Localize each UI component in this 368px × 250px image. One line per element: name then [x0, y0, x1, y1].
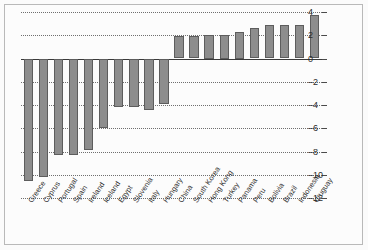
bar	[265, 25, 274, 59]
y-tick-label: 2	[308, 31, 338, 40]
bar	[144, 59, 153, 110]
y-tick-label: –6	[308, 124, 338, 133]
bar	[280, 25, 289, 59]
bar	[189, 36, 198, 58]
bar	[24, 59, 33, 181]
bar	[69, 59, 78, 155]
bar	[295, 25, 304, 59]
bar	[84, 59, 93, 151]
x-axis-category-labels: GreeceCyprusPortugalSpainIrelandIcelandE…	[21, 200, 322, 248]
y-tick-label: –4	[308, 101, 338, 110]
bar	[159, 59, 168, 104]
y-tick-label: 0	[308, 54, 338, 63]
bar	[174, 36, 183, 58]
bar	[114, 59, 123, 108]
chart-figure: 420–2–4–6–8–10–12 GreeceCyprusPortugalSp…	[0, 0, 368, 250]
y-tick-label: 4	[308, 8, 338, 17]
bar	[235, 32, 244, 58]
bar	[220, 35, 229, 58]
y-tick-label: –8	[308, 147, 338, 156]
bars-group	[21, 12, 322, 198]
y-tick-label: –2	[308, 77, 338, 86]
bar	[129, 59, 138, 108]
bar	[99, 59, 108, 129]
plot-area	[21, 12, 322, 198]
bar	[204, 35, 213, 58]
bar	[39, 59, 48, 178]
bar	[54, 59, 63, 155]
bar	[250, 28, 259, 58]
